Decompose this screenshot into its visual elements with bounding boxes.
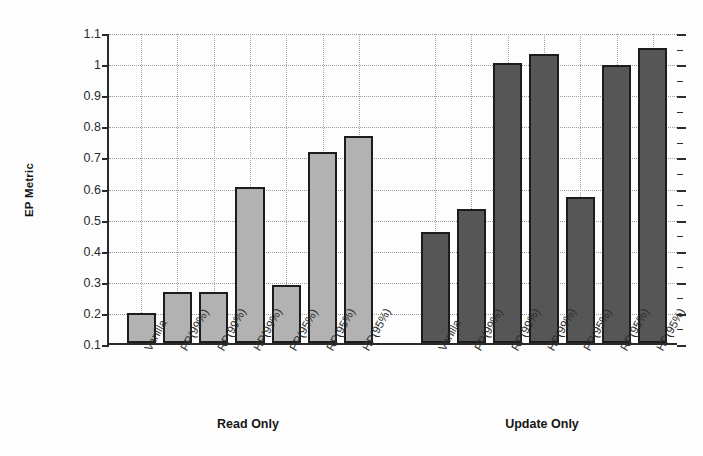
right-tick-minor [677,81,683,82]
y-tick-mark [102,65,109,67]
y-tick-mark [102,252,109,254]
bars-layer [109,34,677,343]
bar-chart-figure: EP Metric 0.10.20.30.40.50.60.70.80.911.… [0,0,703,456]
right-tick-major [677,65,686,67]
right-tick-major [677,158,686,160]
bar [638,48,667,343]
group-caption: Update Only [505,417,579,431]
bar [602,65,631,343]
y-tick-label: 0.4 [61,245,101,259]
y-tick-mark [102,314,109,316]
y-tick-mark [102,283,109,285]
group-caption: Read Only [217,417,279,431]
y-tick-mark [102,190,109,192]
right-tick-minor [677,267,683,268]
right-tick-minor [677,236,683,237]
right-tick-major [677,221,686,223]
y-tick-mark [102,96,109,98]
y-tick-label: 0.7 [61,151,101,165]
right-axis-ticks [677,34,691,345]
bar [493,63,522,343]
x-axis-tick-labels: VanillaPP(99%)RP(99%)HP(99%)PP(95%)RP(95… [107,347,677,417]
right-tick-major [677,283,686,285]
y-tick-label: 1.1 [61,27,101,41]
right-tick-minor [677,112,683,113]
right-tick-minor [677,143,683,144]
y-tick-mark [102,221,109,223]
y-tick-label: 0.1 [61,338,101,352]
y-axis-tick-labels: 0.10.20.30.40.50.60.70.80.911.1 [55,34,101,345]
y-tick-label: 0.9 [61,89,101,103]
right-tick-minor [677,329,683,330]
y-tick-mark [102,34,109,36]
right-tick-major [677,127,686,129]
y-tick-mark [102,127,109,129]
y-tick-label: 0.5 [61,214,101,228]
right-tick-minor [677,50,683,51]
bar [529,54,558,343]
y-tick-label: 1 [61,58,101,72]
y-tick-mark [102,158,109,160]
y-tick-label: 0.3 [61,276,101,290]
right-tick-minor [677,298,683,299]
y-tick-label: 0.6 [61,183,101,197]
right-tick-minor [677,174,683,175]
y-axis-title: EP Metric [14,130,44,250]
right-tick-major [677,345,686,347]
right-tick-major [677,252,686,254]
bar [421,232,450,343]
plot-area [107,34,677,345]
y-tick-label: 0.8 [61,120,101,134]
right-tick-major [677,96,686,98]
right-tick-minor [677,205,683,206]
right-tick-major [677,190,686,192]
y-tick-label: 0.2 [61,307,101,321]
right-tick-major [677,34,686,36]
